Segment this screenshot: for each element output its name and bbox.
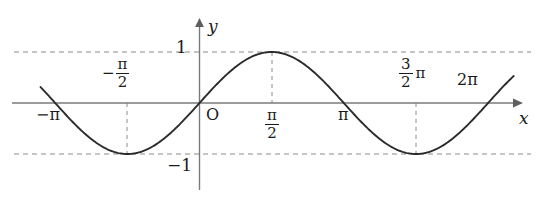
x-tick-label-minus-pi-over-two: − π 2 bbox=[102, 57, 129, 91]
minus-sign: − bbox=[36, 105, 49, 124]
pi-glyph: π bbox=[416, 66, 426, 81]
y-axis-label: y bbox=[208, 18, 218, 35]
minus-sign: − bbox=[167, 155, 181, 175]
x-axis-label: x bbox=[519, 110, 529, 127]
fraction-denominator: 2 bbox=[116, 75, 130, 90]
fraction-numerator: π bbox=[265, 108, 279, 123]
minus-one-digit: 1 bbox=[181, 155, 192, 175]
x-tick-label-minus-pi: −π bbox=[36, 107, 60, 123]
x-tick-label-two-pi: 2π bbox=[457, 72, 478, 88]
x-tick-label-three-pi-over-two: 3 2 π bbox=[399, 57, 425, 91]
minus-sign: − bbox=[102, 66, 115, 81]
pi-glyph: π bbox=[49, 105, 60, 124]
fraction: π 2 bbox=[265, 108, 279, 142]
y-axis-arrowhead bbox=[195, 18, 204, 27]
y-tick-label-one: 1 bbox=[176, 39, 187, 56]
fraction-denominator: 2 bbox=[399, 75, 413, 90]
fraction-numerator: π bbox=[116, 57, 130, 72]
y-tick-label-minus-one: −1 bbox=[167, 157, 192, 174]
fraction-denominator: 2 bbox=[265, 126, 279, 141]
sine-curve-figure: 1 −1 O y x −π − π 2 π 2 π 3 2 bbox=[0, 0, 545, 198]
fraction: 3 2 bbox=[399, 57, 413, 91]
x-tick-label-pi-over-two: π 2 bbox=[265, 108, 279, 142]
plot-canvas bbox=[0, 0, 545, 198]
origin-label: O bbox=[206, 107, 219, 123]
fraction: π 2 bbox=[116, 57, 130, 91]
x-axis-arrowhead bbox=[513, 99, 523, 108]
fraction-numerator: 3 bbox=[399, 57, 413, 72]
x-tick-label-pi: π bbox=[338, 107, 349, 123]
